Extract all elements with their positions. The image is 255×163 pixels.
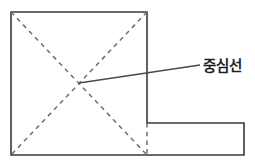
figure-root: 중심선 (0, 0, 255, 163)
drawing-background (0, 0, 255, 163)
centerline-label: 중심선 (203, 58, 243, 74)
engineering-drawing-canvas: 중심선 (0, 0, 255, 163)
